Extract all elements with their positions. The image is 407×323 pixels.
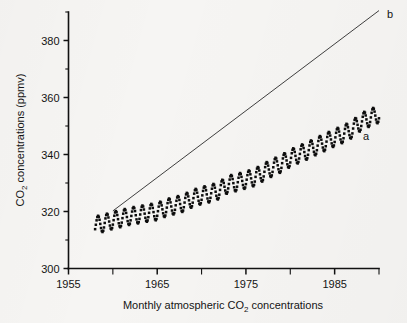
- data-point: [112, 223, 115, 226]
- data-point: [316, 149, 319, 152]
- data-point: [205, 189, 208, 192]
- data-point: [302, 147, 305, 150]
- data-point: [334, 136, 337, 139]
- data-point: [191, 201, 194, 204]
- data-point: [288, 165, 291, 168]
- y-axis-tick-labels: 300320340360380: [41, 35, 59, 275]
- data-point: [250, 177, 253, 180]
- data-point: [352, 127, 355, 129]
- data-point: [149, 207, 152, 210]
- data-point: [249, 173, 252, 176]
- data-point: [290, 157, 293, 160]
- data-point: [117, 218, 120, 221]
- data-point: [121, 217, 124, 220]
- data-point: [337, 127, 340, 129]
- figure-container: 300320340360380 1955196519751985 a b CO2…: [0, 0, 407, 323]
- data-point: [151, 204, 154, 207]
- data-point: [368, 124, 371, 127]
- data-point: [129, 219, 132, 222]
- y-axis-title-post: concentrations (ppmv): [14, 74, 26, 186]
- data-point: [342, 137, 345, 140]
- y-tick-label: 340: [41, 149, 59, 161]
- data-point: [214, 190, 217, 193]
- data-point: [206, 197, 209, 200]
- data-point: [170, 205, 173, 208]
- data-point: [134, 210, 137, 213]
- data-point: [152, 207, 155, 210]
- data-point: [231, 175, 234, 178]
- x-axis-ticks: [69, 269, 380, 275]
- data-point: [357, 127, 360, 130]
- data-point: [184, 197, 187, 200]
- data-point: [284, 153, 287, 156]
- data-point: [183, 201, 186, 204]
- data-point: [360, 125, 363, 128]
- data-point: [335, 132, 338, 135]
- data-point: [131, 210, 134, 213]
- data-point: [370, 116, 373, 119]
- data-point: [218, 193, 221, 196]
- data-point: [355, 117, 358, 120]
- data-point: [224, 189, 227, 192]
- data-point: [196, 191, 199, 194]
- data-point: [227, 187, 230, 190]
- data-point: [277, 168, 280, 171]
- data-point: [339, 134, 342, 137]
- data-point: [258, 169, 261, 172]
- data-point: [157, 205, 160, 208]
- data-point: [109, 224, 112, 227]
- axis-lines: [68, 12, 379, 269]
- data-point: [366, 122, 369, 125]
- data-point: [241, 180, 244, 183]
- data-point: [193, 192, 196, 195]
- series-b-label: b: [387, 8, 393, 20]
- data-point: [262, 179, 265, 182]
- data-point: [257, 167, 260, 170]
- data-point: [219, 189, 222, 192]
- data-point: [324, 148, 327, 151]
- data-point: [344, 128, 347, 130]
- data-point: [375, 118, 378, 121]
- data-point: [204, 186, 207, 189]
- data-point: [169, 198, 172, 201]
- data-point: [240, 176, 243, 179]
- data-point: [174, 204, 177, 207]
- data-point: [169, 201, 172, 204]
- data-point: [209, 197, 212, 200]
- data-point: [120, 221, 123, 224]
- data-point: [162, 212, 165, 215]
- data-point: [361, 120, 364, 123]
- data-point: [268, 172, 271, 175]
- data-point: [308, 144, 311, 147]
- data-point: [103, 222, 106, 225]
- data-point: [213, 184, 216, 187]
- data-point: [304, 155, 307, 158]
- data-point: [223, 182, 226, 185]
- data-point: [295, 159, 298, 162]
- data-point: [142, 205, 145, 208]
- x-tick-label: 1975: [234, 278, 258, 290]
- data-point: [215, 194, 218, 197]
- data-point: [143, 208, 146, 211]
- data-point: [365, 118, 368, 121]
- data-point: [343, 132, 346, 135]
- data-point: [173, 212, 176, 215]
- data-point: [294, 155, 297, 158]
- data-point: [144, 217, 147, 220]
- y-axis-title-pre: CO: [14, 189, 26, 206]
- data-point: [347, 126, 350, 129]
- data-point: [223, 186, 226, 189]
- data-point: [113, 214, 116, 217]
- data-point: [160, 201, 163, 204]
- data-point: [200, 202, 203, 205]
- data-point: [197, 195, 200, 198]
- data-point: [152, 211, 155, 214]
- data-point: [228, 178, 231, 181]
- data-point: [364, 111, 367, 114]
- data-point: [315, 152, 318, 155]
- caption-pre: Monthly atmospheric CO: [123, 299, 244, 311]
- data-point: [285, 155, 288, 158]
- data-point: [325, 145, 328, 148]
- data-point: [115, 211, 118, 214]
- data-point: [351, 132, 354, 135]
